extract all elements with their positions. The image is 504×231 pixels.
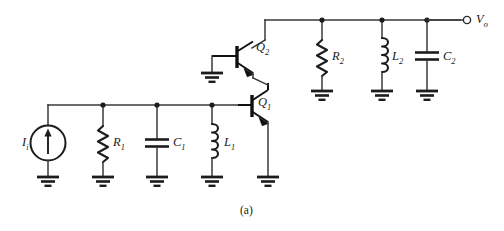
label-Ii: Ii [22,136,29,152]
label-C2: C2 [443,50,456,66]
figure-caption: (a) [240,204,253,216]
ground-icon [37,177,59,186]
circuit-schematic [0,0,504,231]
inductor-L1[interactable] [201,102,223,185]
label-R2: R2 [332,50,344,66]
ground-icon [146,177,168,186]
junction-dot-icon [379,17,384,22]
resistor-R2[interactable] [311,17,333,99]
label-L2: L2 [392,50,403,66]
label-C1: C1 [173,136,186,152]
label-R1: R1 [113,136,125,152]
ground-icon [371,91,393,100]
output-rail-wire [252,20,460,48]
ground-icon [201,73,223,82]
junction-dot-icon [209,102,214,107]
junction-dot-icon [100,102,105,107]
ground-icon [257,177,279,186]
output-terminal-Vo[interactable] [427,16,471,23]
resistor-R1[interactable] [92,102,114,185]
ground-icon [92,177,114,186]
ground-icon [311,91,333,100]
circuit-figure: Ii R1 C1 L1 Q1 Q2 R2 L2 C2 Vo (a) [0,0,504,231]
junction-dot-icon [319,17,324,22]
ground-icon [416,91,438,100]
capacitor-C1[interactable] [145,102,169,185]
capacitor-C2[interactable] [415,17,439,99]
open-terminal-icon [463,16,470,23]
label-Q2: Q2 [256,41,269,57]
ground-icon [201,177,223,186]
inductor-L2[interactable] [371,17,393,99]
current-source-Ii[interactable] [31,105,66,186]
label-L1: L1 [224,136,235,152]
label-Q1: Q1 [258,96,271,112]
label-Vo: Vo [476,13,488,29]
junction-dot-icon [154,102,159,107]
